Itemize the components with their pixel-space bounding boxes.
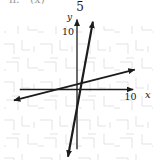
y-axis-label: y: [67, 13, 72, 22]
graph-canvas: h. (x) 5 y 10 10 x: [0, 0, 157, 164]
x-axis-label: x: [145, 90, 151, 100]
x-axis-tick-label-10: 10: [123, 92, 138, 102]
cutoff-text-fragment-right: (x): [30, 0, 48, 4]
cutoff-text-fragment-left: h.: [9, 0, 25, 4]
graph-plot: [0, 0, 157, 164]
top-number: 5: [73, 1, 87, 13]
y-axis-tick-label-10: 10: [59, 27, 74, 37]
